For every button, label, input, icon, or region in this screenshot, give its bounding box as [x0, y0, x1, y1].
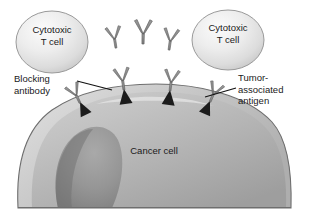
label-tumor-associated-antigen: Tumor- associated antigen: [238, 72, 308, 107]
label-cancer-cell: Cancer cell: [118, 145, 190, 157]
label-blocking-antibody: Blocking antibody: [14, 73, 76, 96]
free-antibody-3[interactable]: [161, 27, 180, 51]
free-antibodies-group: [105, 20, 180, 52]
immunology-diagram: Cytotoxic T cell Cytotoxic T cell Blocki…: [0, 0, 312, 216]
leader-line-blocking-antibody: [77, 81, 112, 90]
label-cytotoxic-t-cell-right: Cytotoxic T cell: [198, 22, 258, 45]
free-antibody-1[interactable]: [105, 25, 124, 49]
label-cytotoxic-t-cell-left: Cytotoxic T cell: [24, 24, 80, 47]
free-antibody-2[interactable]: [134, 20, 152, 45]
